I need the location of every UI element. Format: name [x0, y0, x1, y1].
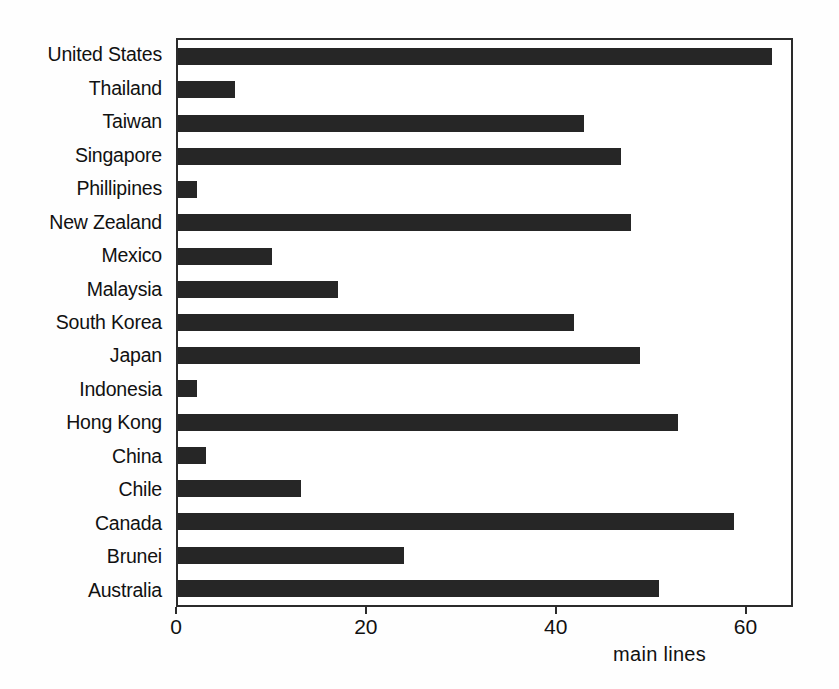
x-tick-mark — [555, 607, 557, 614]
category-label: Indonesia — [0, 373, 170, 406]
bar — [178, 447, 206, 464]
x-axis-title: main lines — [613, 643, 706, 666]
bar — [178, 248, 272, 265]
x-tick-mark — [175, 607, 177, 614]
bar — [178, 314, 574, 331]
bar-row — [178, 40, 791, 73]
bar-row — [178, 339, 791, 372]
category-label: Chile — [0, 473, 170, 506]
bar — [178, 547, 404, 564]
x-tick-mark — [365, 607, 367, 614]
bar — [178, 513, 734, 530]
category-label: Thailand — [0, 71, 170, 104]
bar — [178, 115, 584, 132]
category-label: Australia — [0, 574, 170, 607]
x-tick-label: 0 — [170, 615, 182, 639]
bar-row — [178, 273, 791, 306]
bar-row — [178, 472, 791, 505]
bar-row — [178, 173, 791, 206]
category-label: Hong Kong — [0, 406, 170, 439]
category-label: China — [0, 440, 170, 473]
bar — [178, 281, 338, 298]
category-label: Canada — [0, 507, 170, 540]
x-tick-label: 20 — [354, 615, 377, 639]
category-label: Japan — [0, 339, 170, 372]
bar — [178, 580, 659, 597]
bar — [178, 148, 621, 165]
plot-area — [176, 38, 793, 607]
bar — [178, 48, 772, 65]
bar — [178, 380, 197, 397]
bars-layer — [178, 40, 791, 605]
bar-row — [178, 505, 791, 538]
bar-row — [178, 73, 791, 106]
category-label: Phillipines — [0, 172, 170, 205]
category-label: South Korea — [0, 306, 170, 339]
bar — [178, 480, 301, 497]
bar-row — [178, 206, 791, 239]
bar — [178, 414, 678, 431]
bar-row — [178, 140, 791, 173]
category-label: Mexico — [0, 239, 170, 272]
x-tick-mark — [745, 607, 747, 614]
category-axis: United StatesThailandTaiwanSingaporePhil… — [0, 38, 170, 607]
bar-row — [178, 239, 791, 272]
bar — [178, 81, 235, 98]
category-label: New Zealand — [0, 205, 170, 238]
bar-row — [178, 439, 791, 472]
category-label: Taiwan — [0, 105, 170, 138]
bar-row — [178, 406, 791, 439]
bar — [178, 347, 640, 364]
bar-chart: United StatesThailandTaiwanSingaporePhil… — [0, 0, 839, 689]
bar-row — [178, 539, 791, 572]
bar-row — [178, 572, 791, 605]
category-label: Brunei — [0, 540, 170, 573]
x-tick-label: 60 — [734, 615, 757, 639]
bar-row — [178, 372, 791, 405]
bar — [178, 181, 197, 198]
bar-row — [178, 106, 791, 139]
category-label: Singapore — [0, 138, 170, 171]
x-tick-label: 40 — [544, 615, 567, 639]
bar-row — [178, 306, 791, 339]
category-label: Malaysia — [0, 272, 170, 305]
bar — [178, 214, 631, 231]
category-label: United States — [0, 38, 170, 71]
